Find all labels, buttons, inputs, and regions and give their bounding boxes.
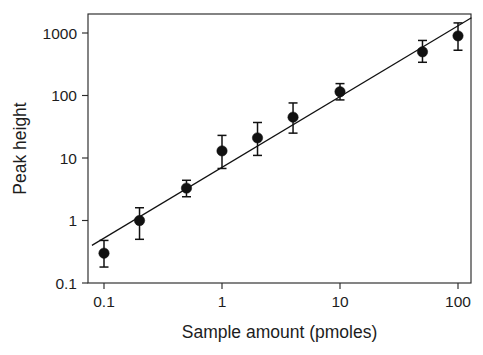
y-axis-label: Peak height	[10, 102, 30, 195]
data-point	[252, 133, 262, 143]
data-point	[288, 112, 298, 122]
x-axis-ticks	[104, 283, 458, 289]
data-point	[335, 87, 345, 97]
x-tick-label-1: 1	[218, 293, 227, 310]
y-axis-tick-labels: 0.11101001000	[43, 25, 78, 292]
plot-frame	[88, 14, 471, 283]
y-axis-ticks	[82, 33, 88, 283]
data-point	[99, 248, 109, 258]
x-tick-label-0.1: 0.1	[93, 293, 115, 310]
data-points	[99, 31, 463, 259]
data-point	[453, 31, 463, 41]
y-tick-label-1: 1	[68, 212, 77, 229]
x-tick-label-100: 100	[445, 293, 471, 310]
y-tick-label-0.1: 0.1	[55, 275, 77, 292]
data-point	[417, 47, 427, 57]
data-point	[181, 183, 191, 193]
y-tick-label-100: 100	[51, 87, 77, 104]
data-point	[217, 146, 227, 156]
plot-border	[88, 14, 471, 283]
y-tick-label-10: 10	[60, 150, 78, 167]
chart-figure: 0.1110100 0.11101001000 Sample amount (p…	[0, 0, 483, 355]
y-tick-label-1000: 1000	[43, 25, 78, 42]
data-point	[134, 215, 144, 225]
x-axis-tick-labels: 0.1110100	[93, 293, 471, 310]
fit-line	[92, 18, 472, 246]
error-bars	[100, 23, 463, 267]
x-axis-label: Sample amount (pmoles)	[182, 322, 378, 342]
x-tick-label-10: 10	[331, 293, 349, 310]
regression-line	[92, 18, 472, 246]
log-log-scatter-plot: 0.1110100 0.11101001000 Sample amount (p…	[0, 0, 483, 355]
